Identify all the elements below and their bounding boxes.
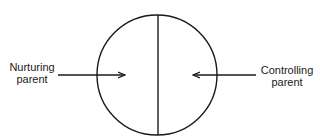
nurturing-label-line2: parent (4, 73, 60, 85)
nurturing-label-line1: Nurturing (4, 61, 60, 73)
diagram-canvas: Nurturing parent Controlling parent (0, 0, 320, 140)
controlling-label-line2: parent (256, 76, 318, 88)
nurturing-parent-label: Nurturing parent (4, 61, 60, 85)
controlling-parent-label: Controlling parent (256, 64, 318, 88)
controlling-label-line1: Controlling (256, 64, 318, 76)
